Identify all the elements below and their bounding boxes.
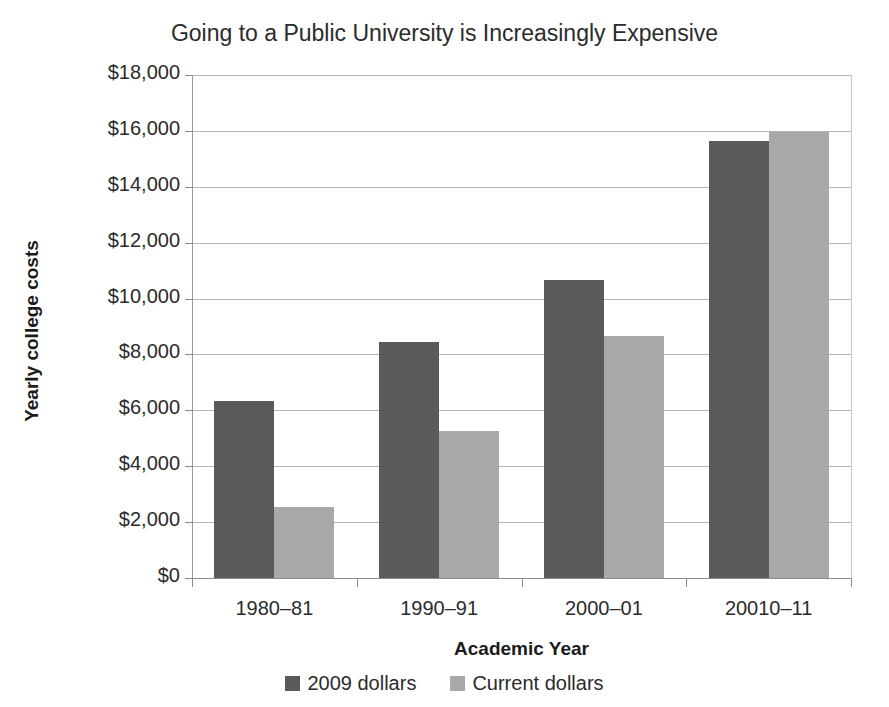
y-tick-label-18000: $18,000 (60, 61, 180, 84)
bar-1-0 (379, 342, 439, 578)
y-tick-mark-2000 (185, 522, 193, 523)
bar-2-1 (604, 336, 664, 578)
bar-3-0 (709, 141, 769, 578)
gridline-16000 (192, 131, 851, 132)
y-tick-label-6000: $6,000 (60, 396, 180, 419)
legend-label-1: Current dollars (472, 672, 603, 695)
category-separator-3 (686, 578, 687, 587)
y-tick-label-16000: $16,000 (60, 117, 180, 140)
legend-item-1[interactable]: Current dollars (450, 672, 603, 695)
x-axis-label-2: 2000–01 (522, 597, 687, 620)
y-tick-label-4000: $4,000 (60, 452, 180, 475)
y-tick-mark-6000 (185, 410, 193, 411)
legend-label-0: 2009 dollars (307, 672, 416, 695)
plot-area (192, 75, 851, 578)
category-separator-2 (522, 578, 523, 587)
y-tick-label-12000: $12,000 (60, 229, 180, 252)
gridline-18000 (192, 75, 851, 76)
y-tick-label-2000: $2,000 (60, 508, 180, 531)
x-axis-title: Academic Year (192, 638, 851, 660)
category-separator-1 (357, 578, 358, 587)
y-tick-mark-8000 (185, 354, 193, 355)
legend-swatch-icon-0 (285, 676, 300, 691)
bar-1-1 (439, 431, 499, 578)
y-tick-label-0: $0 (60, 564, 180, 587)
y-tick-mark-18000 (185, 75, 193, 76)
y-axis-title: Yearly college costs (21, 211, 43, 451)
category-separator-4 (851, 578, 852, 587)
y-tick-mark-12000 (185, 243, 193, 244)
x-axis-label-1: 1990–91 (357, 597, 522, 620)
chart-title: Going to a Public University is Increasi… (0, 20, 889, 47)
plot-right-edge (851, 75, 852, 579)
y-tick-label-14000: $14,000 (60, 173, 180, 196)
y-tick-mark-0 (185, 578, 193, 579)
bar-3-1 (769, 132, 829, 578)
y-tick-mark-10000 (185, 299, 193, 300)
legend-swatch-icon-1 (450, 676, 465, 691)
bar-2-0 (544, 280, 604, 578)
y-tick-label-10000: $10,000 (60, 285, 180, 308)
y-tick-mark-4000 (185, 466, 193, 467)
y-tick-label-8000: $8,000 (60, 340, 180, 363)
y-tick-mark-14000 (185, 187, 193, 188)
y-axis-tick-labels: $0$2,000$4,000$6,000$8,000$10,000$12,000… (52, 75, 180, 578)
bar-chart-figure: Going to a Public University is Increasi… (0, 0, 889, 707)
chart-legend: 2009 dollarsCurrent dollars (0, 672, 889, 695)
x-axis-label-0: 1980–81 (192, 597, 357, 620)
category-separator-0 (192, 578, 193, 587)
legend-item-0[interactable]: 2009 dollars (285, 672, 416, 695)
bar-0-0 (214, 401, 274, 578)
bar-0-1 (274, 507, 334, 578)
x-axis-label-3: 20010–11 (686, 597, 851, 620)
y-tick-mark-16000 (185, 131, 193, 132)
